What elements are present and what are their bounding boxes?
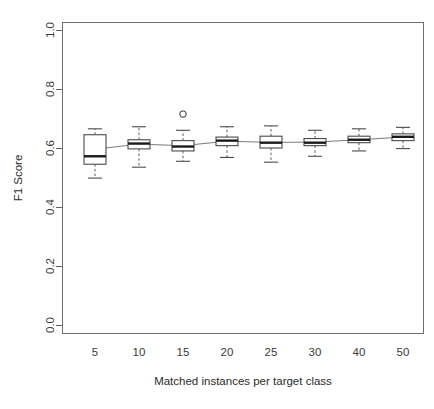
y-tick-label: 0.0 [44, 317, 56, 333]
x-tick-label: 50 [397, 346, 410, 358]
y-tick-label: 0.6 [44, 140, 56, 156]
chart-figure: 0.00.20.40.60.81.0 510152025304050 F1 Sc… [0, 0, 434, 409]
x-tick-label: 40 [353, 346, 366, 358]
x-tick-label: 30 [309, 346, 322, 358]
chart-background [0, 0, 434, 409]
x-axis-title: Matched instances per target class [154, 375, 332, 387]
x-tick-label: 25 [265, 346, 278, 358]
x-tick-label: 10 [133, 346, 146, 358]
x-tick-label: 20 [221, 346, 234, 358]
y-tick-label: 1.0 [44, 22, 56, 38]
boxplot-chart: 0.00.20.40.60.81.0 510152025304050 F1 Sc… [0, 0, 434, 409]
x-tick-label: 15 [177, 346, 190, 358]
y-tick-label: 0.2 [44, 258, 56, 274]
y-tick-label: 0.8 [44, 81, 56, 97]
y-axis-title: F1 Score [12, 155, 24, 202]
box-iqr [84, 135, 106, 165]
y-tick-label: 0.4 [44, 198, 56, 215]
x-tick-label: 5 [92, 346, 98, 358]
